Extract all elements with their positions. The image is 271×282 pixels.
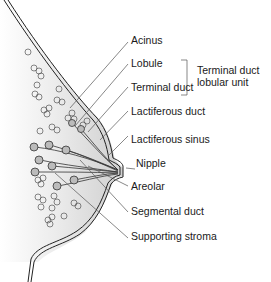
- label-segmental-duct: Segmental duct: [131, 205, 204, 217]
- breast-tissue: [0, 0, 123, 262]
- label-terminal-duct-lobular-unit: Terminal duct lobular unit: [197, 64, 259, 88]
- label-acinus: Acinus: [131, 34, 163, 46]
- label-terminal-duct: Terminal duct: [131, 81, 193, 93]
- label-supporting-stroma: Supporting stroma: [131, 230, 217, 242]
- label-areolar: Areolar: [131, 180, 165, 192]
- label-lactiferous-sinus: Lactiferous sinus: [131, 133, 210, 145]
- group-label-line1: Terminal duct: [197, 64, 259, 76]
- group-label-line2: lobular unit: [197, 76, 259, 88]
- label-lactiferous-duct: Lactiferous duct: [131, 105, 205, 117]
- label-nipple: Nipple: [136, 157, 166, 169]
- label-lobule: Lobule: [131, 57, 163, 69]
